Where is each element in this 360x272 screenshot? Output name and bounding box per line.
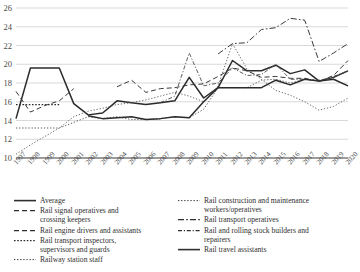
y-axis-tick-label: 26 (4, 3, 13, 13)
legend-item[interactable]: Average (14, 196, 184, 205)
legend-item[interactable]: Rail construction and maintenance worker… (178, 196, 350, 214)
legend-line-swatch-solid-icon (14, 196, 36, 205)
series-line (16, 61, 348, 119)
series-line (16, 71, 348, 128)
y-axis-tick-label: 12 (4, 134, 13, 144)
chart-legend: AverageRail signal operatives and crossi… (0, 196, 350, 272)
y-axis-tick-label: 22 (4, 41, 13, 51)
legend-item-label: Rail travel assistants (204, 245, 266, 254)
plot-area: 101214161820222426 199719981999200020012… (0, 0, 350, 195)
y-axis-tick-label: 20 (4, 59, 13, 69)
legend-item-label: Rail transport inspectors, supervisors a… (40, 236, 116, 254)
legend-item-label: Rail and rolling stock builders and repa… (204, 226, 309, 244)
legend-item[interactable]: Rail signal operatives and crossing keep… (14, 206, 184, 224)
y-axis-tick-label: 14 (4, 116, 13, 126)
legend-item[interactable]: Railway station staff (14, 255, 184, 264)
series-line (218, 18, 348, 61)
legend-line-swatch-dashdot-icon (178, 215, 200, 224)
legend-column-left: AverageRail signal operatives and crossi… (14, 196, 184, 265)
legend-item[interactable]: Rail engine drivers and assistants (14, 226, 184, 235)
legend-item[interactable]: Rail and rolling stock builders and repa… (178, 226, 350, 244)
legend-line-swatch-dotted-thick-icon (14, 236, 36, 245)
legend-line-swatch-dotted-fine-icon (14, 255, 36, 264)
legend-line-swatch-dashed-icon (14, 206, 36, 215)
legend-item-label: Rail transport operatives (204, 215, 279, 224)
legend-item[interactable]: Rail transport operatives (178, 215, 350, 224)
legend-line-swatch-dashed-icon (14, 226, 36, 235)
legend-item-label: Rail construction and maintenance worker… (204, 196, 309, 214)
series-line (16, 44, 348, 155)
y-axis-tick-label: 16 (4, 97, 13, 107)
legend-line-swatch-dashdot-fine-icon (178, 226, 200, 235)
legend-item-label: Rail signal operatives and crossing keep… (40, 206, 119, 224)
y-axis-tick-label: 24 (4, 22, 13, 32)
legend-line-swatch-dotted-fine-icon (178, 196, 200, 205)
legend-item-label: Railway station staff (40, 255, 103, 264)
legend-line-swatch-solid-icon (178, 245, 200, 254)
legend-item-label: Rail engine drivers and assistants (40, 226, 141, 235)
series-line (88, 79, 348, 119)
y-axis-tick-label: 10 (4, 153, 13, 163)
series-line (16, 89, 74, 112)
y-axis-tick-label: 18 (4, 78, 13, 88)
legend-item[interactable]: Rail transport inspectors, supervisors a… (14, 236, 184, 254)
line-chart-svg: 101214161820222426 (0, 0, 350, 195)
legend-item[interactable]: Rail travel assistants (178, 245, 350, 254)
legend-column-right: Rail construction and maintenance worker… (178, 196, 350, 255)
legend-item-label: Average (40, 196, 65, 205)
